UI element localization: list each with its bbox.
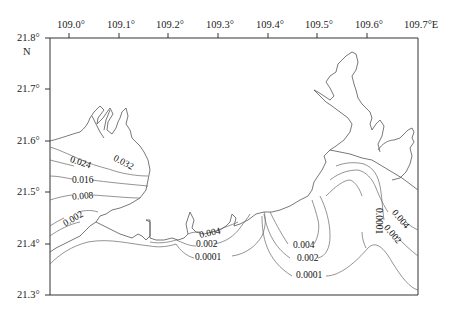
contour-label: 0.0001 — [195, 252, 221, 262]
lon-label-109-3: 109.3° — [206, 20, 234, 31]
contour-label: 0.032 — [112, 153, 136, 172]
lat-label-21-3: 21.3° — [17, 290, 40, 301]
contour-label: 0.016 — [72, 175, 94, 185]
lon-label-109-2: 109.2° — [156, 20, 184, 31]
lat-label-21-8: 21.8° — [17, 33, 40, 44]
north-label: N — [23, 47, 31, 58]
lat-label-21-4: 21.4° — [17, 239, 40, 250]
contour-label: 0.002 — [297, 253, 319, 263]
lat-label-21-5: 21.5° — [17, 187, 40, 198]
contour-label: 0.004 — [293, 240, 315, 250]
lat-label-21-6: 21.6° — [17, 136, 40, 147]
lon-label-109-4: 109.4° — [256, 20, 284, 31]
contour-map: 0.024 0.032 0.016 0.008 0.002 0.004 0.00… — [0, 0, 453, 317]
lon-label-109-5: 109.5° — [305, 20, 333, 31]
contour-labels: 0.024 0.032 0.016 0.008 0.002 0.004 0.00… — [61, 153, 411, 280]
lat-label-21-7: 21.7° — [17, 84, 40, 95]
map-frame — [50, 38, 418, 295]
coastline — [50, 52, 418, 252]
lon-label-109-0: 109.0° — [57, 20, 85, 31]
contour-label: 0.008 — [72, 190, 94, 202]
contour-label: 0.0001 — [296, 270, 322, 280]
contour-label: 0.004 — [198, 226, 221, 240]
contour-label: 0.002 — [61, 209, 85, 228]
lon-label-109-7E: 109.7°E — [404, 20, 438, 31]
contour-lines — [50, 147, 418, 290]
contour-label: 0.002 — [196, 239, 218, 249]
lon-label-109-1: 109.1° — [107, 20, 135, 31]
contour-label: 0.0001 — [374, 208, 384, 234]
lon-label-109-6: 109.6° — [355, 20, 383, 31]
contour-label: 0.024 — [69, 154, 93, 170]
